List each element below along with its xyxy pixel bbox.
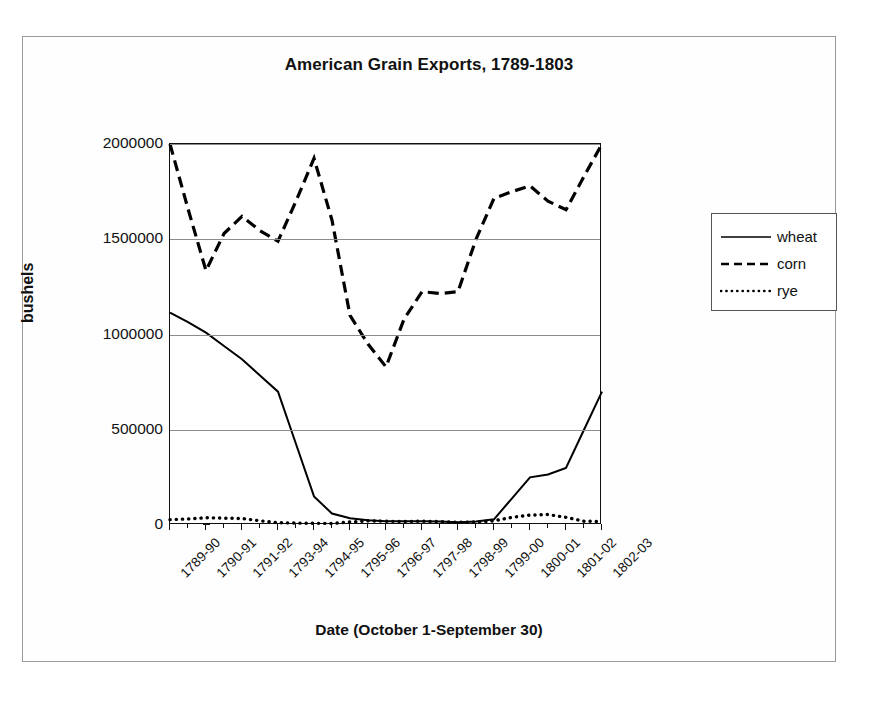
legend-item-rye[interactable]: rye (712, 277, 836, 304)
x-tick-mark (601, 524, 602, 530)
x-tick-mark (241, 524, 242, 530)
x-tick-mark (205, 524, 206, 530)
x-tick-mark (385, 524, 386, 530)
x-tick-mark-minor (475, 524, 476, 528)
x-tick-mark-minor (259, 524, 260, 528)
x-tick-mark (421, 524, 422, 530)
y-tick-label: 1500000 (103, 229, 163, 247)
x-axis-label: Date (October 1-September 30) (23, 621, 835, 639)
x-tick-mark (457, 524, 458, 530)
x-tick-mark-minor (187, 524, 188, 528)
x-tick-mark (313, 524, 314, 530)
chart-title: American Grain Exports, 1789-1803 (23, 55, 835, 75)
y-tick-label: 0 (154, 515, 163, 533)
chart-page: American Grain Exports, 1789-1803 bushel… (0, 0, 870, 706)
x-tick-mark-minor (583, 524, 584, 528)
x-tick-mark-minor (223, 524, 224, 528)
legend-swatch-solid-icon (720, 231, 772, 243)
x-tick-mark (529, 524, 530, 530)
gridline (170, 430, 600, 431)
x-tick-mark (277, 524, 278, 530)
series-line-rye (170, 515, 602, 524)
legend-swatch-dotted-icon (720, 285, 772, 297)
x-tick-mark-minor (511, 524, 512, 528)
y-axis-label: bushels (19, 263, 37, 323)
y-tick-label: 1000000 (103, 325, 163, 343)
legend-label: corn (777, 255, 806, 272)
x-tick-mark (169, 524, 170, 530)
x-tick-mark (349, 524, 350, 530)
x-tick-mark-minor (547, 524, 548, 528)
legend-label: rye (777, 282, 798, 299)
y-tick-label: 2000000 (103, 134, 163, 152)
x-tick-mark-minor (295, 524, 296, 528)
legend-item-corn[interactable]: corn (712, 250, 836, 277)
gridline (170, 239, 600, 240)
chart-legend: wheat corn rye (711, 213, 837, 311)
x-tick-mark-minor (331, 524, 332, 528)
gridline (170, 335, 600, 336)
y-tick-label: 500000 (111, 420, 163, 438)
plot-area (169, 143, 601, 524)
x-tick-mark-minor (439, 524, 440, 528)
x-tick-mark (565, 524, 566, 530)
legend-label: wheat (777, 228, 817, 245)
legend-swatch-dashed-icon (720, 258, 772, 270)
y-axis-tick-labels: 0500000100000015000002000000 (63, 143, 163, 524)
legend-item-wheat[interactable]: wheat (712, 223, 836, 250)
gridline (170, 144, 600, 145)
x-tick-mark-minor (403, 524, 404, 528)
x-tick-mark (493, 524, 494, 530)
series-line-wheat (170, 313, 602, 523)
series-line-corn (170, 144, 602, 367)
x-tick-mark-minor (367, 524, 368, 528)
chart-frame: American Grain Exports, 1789-1803 bushel… (22, 36, 836, 662)
